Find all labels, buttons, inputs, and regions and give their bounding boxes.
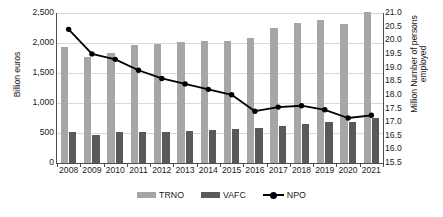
y-axis-right-tick-label: 19.5 xyxy=(385,49,402,58)
y-axis-left-ticks: 05001,0001,5002,0002,500 xyxy=(14,0,54,217)
x-axis-tick-label: 2015 xyxy=(220,166,243,175)
x-axis-tick-labels: 2008200920102011201220132014201520162017… xyxy=(57,166,383,180)
y-axis-right-tick-label: 21.0 xyxy=(385,8,402,17)
y-axis-left-tick-label: 2,500 xyxy=(14,8,54,17)
x-axis-tick-label: 2017 xyxy=(267,166,290,175)
x-axis-tick-label: 2010 xyxy=(104,166,127,175)
legend-item-vafc[interactable]: VAFC xyxy=(201,190,246,200)
y-axis-left-tick-label: 2,000 xyxy=(14,38,54,47)
y-axis-right-tick-label: 17.5 xyxy=(385,104,402,113)
y-axis-right-tick-label: 16.0 xyxy=(385,144,402,153)
x-axis-tick-label: 2016 xyxy=(243,166,266,175)
legend-swatch-line-marker-icon xyxy=(263,191,284,199)
x-axis-tick-label: 2011 xyxy=(127,166,150,175)
legend-swatch-bar-icon xyxy=(201,192,220,198)
npo-data-point xyxy=(66,27,71,32)
chart-legend: TRNO VAFC NPO xyxy=(0,190,443,200)
npo-data-point xyxy=(89,51,94,56)
x-axis-tick-label: 2021 xyxy=(360,166,383,175)
x-axis-tick-label: 2013 xyxy=(173,166,196,175)
npo-markers xyxy=(66,27,374,121)
y-axis-left-tick-label: 1,000 xyxy=(14,98,54,107)
x-tickmark xyxy=(383,163,384,167)
legend-label-trno: TRNO xyxy=(159,190,184,200)
x-axis-tick-label: 2020 xyxy=(336,166,359,175)
y-axis-right-tick-label: 17.0 xyxy=(385,117,402,126)
npo-line-series xyxy=(57,13,383,163)
y-axis-right-tick-label: 18.0 xyxy=(385,90,402,99)
npo-data-point xyxy=(113,57,118,62)
y-axis-right-tick-label: 20.0 xyxy=(385,35,402,44)
x-axis-tick-label: 2014 xyxy=(197,166,220,175)
x-axis-tick-label: 2018 xyxy=(290,166,313,175)
npo-data-point xyxy=(229,92,234,97)
legend-label-vafc: VAFC xyxy=(223,190,246,200)
npo-data-point xyxy=(206,87,211,92)
npo-data-point xyxy=(182,81,187,86)
chart-figure: Billion euros 05001,0001,5002,0002,500 1… xyxy=(0,0,443,217)
npo-data-point xyxy=(136,68,141,73)
npo-polyline xyxy=(69,29,372,118)
x-axis-tick-label: 2012 xyxy=(150,166,173,175)
y-axis-left-tick-label: 500 xyxy=(14,128,54,137)
y-axis-left-tick-label: 1,500 xyxy=(14,68,54,77)
y-axis-right-line xyxy=(383,13,384,164)
npo-data-point xyxy=(369,113,374,118)
npo-data-point xyxy=(299,103,304,108)
legend-item-trno[interactable]: TRNO xyxy=(137,190,184,200)
x-axis-tick-label: 2019 xyxy=(313,166,336,175)
npo-data-point xyxy=(276,104,281,109)
legend-swatch-bar-icon xyxy=(137,192,156,198)
y-axis-right-title: Million Number of persons employed xyxy=(410,0,428,130)
x-axis-tick-label: 2009 xyxy=(80,166,103,175)
y-axis-right-tick-label: 16.5 xyxy=(385,131,402,140)
y-axis-left-tick-label: 0 xyxy=(14,158,54,167)
npo-data-point xyxy=(345,115,350,120)
npo-data-point xyxy=(252,108,257,113)
y-axis-right-tick-label: 18.5 xyxy=(385,76,402,85)
npo-data-point xyxy=(322,107,327,112)
npo-data-point xyxy=(159,76,164,81)
x-axis-tick-label: 2008 xyxy=(57,166,80,175)
y-axis-right-tick-label: 15.5 xyxy=(385,158,402,167)
legend-label-npo: NPO xyxy=(287,190,306,200)
legend-item-npo[interactable]: NPO xyxy=(263,190,306,200)
plot-area xyxy=(57,13,383,163)
y-axis-right-title-line2: employed xyxy=(419,0,428,130)
y-axis-right-tick-label: 20.5 xyxy=(385,22,402,31)
y-axis-right-tick-label: 19.0 xyxy=(385,63,402,72)
